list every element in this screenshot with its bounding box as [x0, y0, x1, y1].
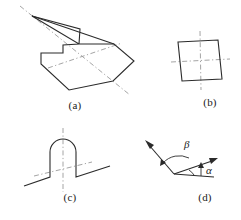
- panel-a-axis-minor-horizontal: [48, 43, 122, 68]
- panel-b-axis-vertical: [200, 31, 201, 90]
- caption-c: (c): [50, 191, 90, 203]
- figure-root: (a) (b) (c): [0, 0, 241, 220]
- panel-d-alpha-arc: [189, 170, 194, 175]
- panel-c: [22, 122, 114, 198]
- panel-b-drawing: [170, 26, 234, 96]
- caption-d: (d): [185, 191, 225, 203]
- panel-d-beta-arc: [163, 156, 189, 163]
- panel-c-drawing: [22, 122, 114, 198]
- panel-d-arrowhead-upper-left: [145, 140, 154, 149]
- panel-a: [6, 2, 146, 102]
- panel-a-drawing: [6, 2, 146, 102]
- panel-a-axis-major-diagonal: [20, 6, 130, 95]
- panel-d-label-alpha: α: [206, 164, 212, 176]
- panel-d-drawing: β α: [142, 132, 228, 190]
- panel-c-profile-outline: [24, 139, 110, 186]
- caption-b: (b): [190, 96, 230, 108]
- panel-b: [170, 26, 234, 96]
- panel-d-label-beta: β: [183, 138, 190, 150]
- panel-a-polygon-outline: [32, 16, 134, 90]
- panel-d: β α: [142, 132, 228, 190]
- panel-d-beta-arc-head: [160, 159, 166, 166]
- caption-a: (a): [55, 99, 95, 111]
